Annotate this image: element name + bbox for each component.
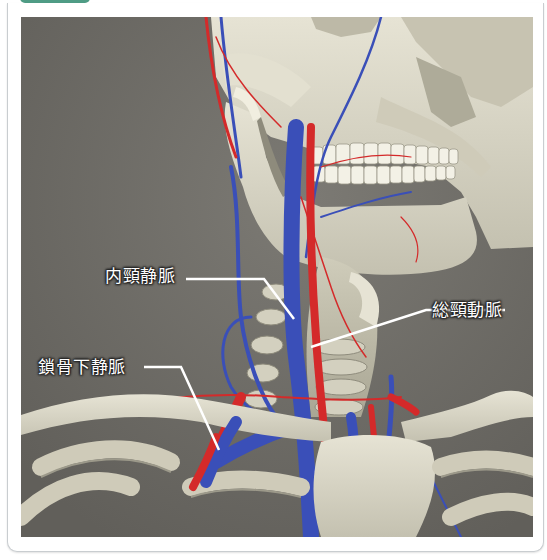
neck-anatomy-drawing [21, 17, 533, 537]
anatomy-illustration: 内頸静脈 総頸動脈 鎖骨下静脈 [21, 17, 533, 537]
label-internal-jugular-vein: 内頸静脈 [105, 266, 175, 286]
label-common-carotid-artery: 総頸動脈 [432, 300, 502, 320]
label-subclavian-vein: 鎖骨下静脈 [38, 357, 126, 377]
